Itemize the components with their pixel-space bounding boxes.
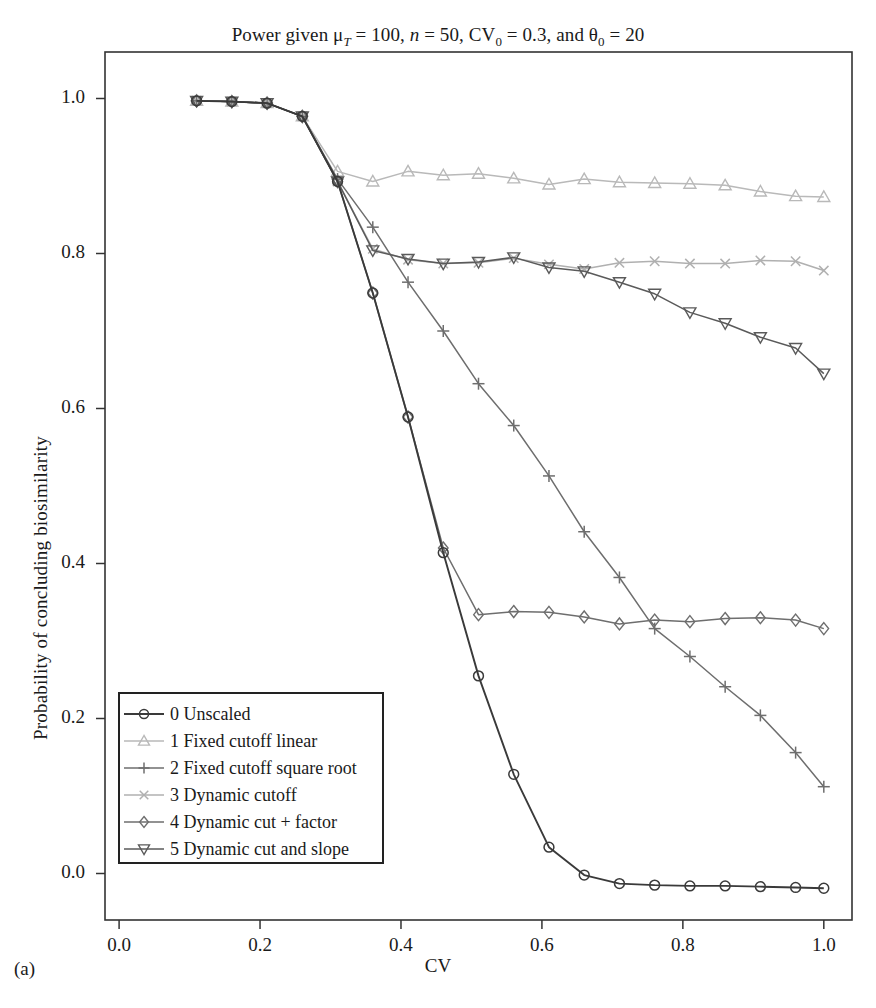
y-tick-label: 0.6 [23, 396, 85, 418]
legend-item-2[interactable]: 2 Fixed cutoff square root [120, 754, 382, 782]
legend-item-5[interactable]: 5 Dynamic cut and slope [120, 835, 382, 863]
legend-item-label: 2 Fixed cutoff square root [170, 759, 357, 777]
legend-sample-canvas [120, 756, 168, 780]
data-point-diamond [819, 623, 829, 635]
data-point-plus [139, 763, 150, 774]
y-tick-label: 1.0 [23, 86, 85, 108]
series-line [197, 101, 824, 374]
legend-marker-sample [120, 783, 168, 807]
legend-item-3[interactable]: 3 Dynamic cutoff [120, 781, 382, 809]
figure-panel-a: Power given μT = 100, n = 50, CV0 = 0.3,… [0, 0, 876, 1008]
legend-sample-canvas [120, 810, 168, 834]
y-tick-label: 0.0 [23, 861, 85, 883]
data-point-plus [437, 325, 449, 337]
legend-marker-sample [120, 810, 168, 834]
chart-title: Power given μT = 100, n = 50, CV0 = 0.3,… [0, 24, 876, 50]
data-point-triangle-up [473, 168, 485, 179]
title-mu: μ [333, 24, 343, 45]
x-tick-label: 1.0 [804, 934, 844, 956]
data-point-triangle-up [578, 173, 590, 184]
title-part-5: = 20 [605, 24, 645, 45]
data-point-plus [367, 221, 379, 233]
series-2 [191, 95, 830, 793]
legend-item-label: 3 Dynamic cutoff [170, 786, 297, 804]
legend-item-1[interactable]: 1 Fixed cutoff linear [120, 727, 382, 755]
title-cv-subscript: 0 [495, 34, 502, 49]
data-point-plus [402, 276, 414, 288]
title-part-3: = 50, CV [419, 24, 495, 45]
title-theta: θ [589, 24, 598, 45]
legend-sample-canvas [120, 702, 168, 726]
data-point-plus [578, 526, 590, 538]
title-mu-subscript: T [343, 34, 350, 49]
legend-item-label: 5 Dynamic cut and slope [170, 840, 349, 858]
legend-sample-canvas [120, 783, 168, 807]
x-axis-label: CV [0, 955, 876, 977]
panel-caption: (a) [14, 958, 35, 980]
legend-item-label: 0 Unscaled [170, 705, 250, 723]
x-tick-label: 0.8 [663, 934, 703, 956]
legend-marker-sample [120, 837, 168, 861]
legend-marker-sample [120, 756, 168, 780]
legend-item-0[interactable]: 0 Unscaled [120, 700, 382, 728]
series-5 [191, 96, 830, 379]
legend-item-label: 4 Dynamic cut + factor [170, 813, 337, 831]
title-part-1: Power given [232, 24, 333, 45]
y-tick-label: 0.4 [23, 551, 85, 573]
series-line [197, 101, 824, 629]
triangle-up-marker-icon [578, 173, 590, 184]
legend-marker-sample [120, 729, 168, 753]
x-tick-label: 0.0 [99, 934, 139, 956]
title-theta-subscript: 0 [598, 34, 605, 49]
series-4 [192, 95, 829, 635]
legend-item-4[interactable]: 4 Dynamic cut + factor [120, 808, 382, 836]
legend-sample-canvas [120, 729, 168, 753]
x-tick-label: 0.2 [240, 934, 280, 956]
data-point-plus [613, 571, 625, 583]
data-point-plus [543, 470, 555, 482]
title-part-2: = 100, [351, 24, 410, 45]
triangle-up-marker-icon [473, 168, 485, 179]
title-n: n [410, 24, 420, 45]
data-point-x [819, 266, 828, 275]
title-part-4: = 0.3, and [502, 24, 589, 45]
chart-legend: 0 Unscaled1 Fixed cutoff linear2 Fixed c… [118, 692, 384, 864]
x-tick-label: 0.4 [381, 934, 421, 956]
legend-item-label: 1 Fixed cutoff linear [170, 732, 317, 750]
x-tick-label: 0.6 [522, 934, 562, 956]
legend-sample-canvas [120, 837, 168, 861]
y-tick-label: 0.2 [23, 706, 85, 728]
y-tick-label: 0.8 [23, 241, 85, 263]
diamond-marker-icon [819, 623, 829, 635]
series-line [197, 101, 824, 787]
series-3 [192, 96, 829, 275]
legend-marker-sample [120, 702, 168, 726]
y-axis-label: Probability of concluding biosimilarity [30, 436, 52, 740]
